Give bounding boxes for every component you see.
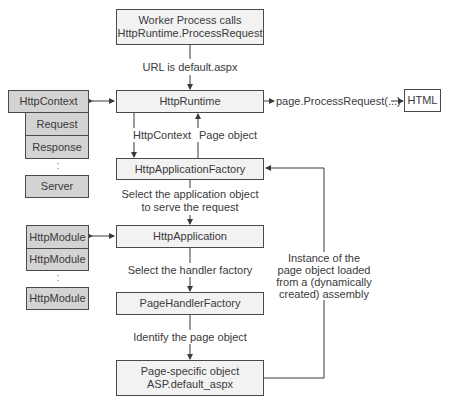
request-box: Request xyxy=(25,112,89,136)
select-handler-label: Select the handler factory xyxy=(125,264,255,277)
module-ellipsis: : xyxy=(54,275,62,280)
worker-process-line1: Worker Process calls xyxy=(138,14,241,27)
http-module-box-3: HttpModule xyxy=(26,287,89,310)
page-object-line2: ASP.default_aspx xyxy=(147,378,233,391)
http-module-box-2: HttpModule xyxy=(26,248,89,271)
http-application-box: HttpApplication xyxy=(116,225,264,248)
process-request-label: page.ProcessRequest(...) xyxy=(276,95,390,108)
page-specific-object-box: Page-specific object ASP.default_aspx xyxy=(116,360,264,396)
http-runtime-box: HttpRuntime xyxy=(116,90,264,113)
http-context-box: HttpContext xyxy=(8,90,89,113)
asp-net-request-pipeline-diagram: Worker Process calls HttpRuntime.Process… xyxy=(0,0,450,406)
instance-label-4: created) assembly xyxy=(270,288,378,301)
page-object-line1: Page-specific object xyxy=(141,365,239,378)
http-module-box-1: HttpModule xyxy=(26,225,89,249)
worker-process-line2: HttpRuntime.ProcessRequest xyxy=(118,27,263,40)
http-context-edge-label: HttpContext xyxy=(130,129,194,142)
identify-page-label: Identify the page object xyxy=(128,331,252,344)
html-box: HTML xyxy=(404,89,441,112)
http-application-factory-box: HttpApplicationFactory xyxy=(116,158,264,180)
response-box: Response xyxy=(25,135,89,159)
select-application-label-1: Select the application object xyxy=(115,188,265,201)
server-box: Server xyxy=(25,175,89,198)
page-handler-factory-box: PageHandlerFactory xyxy=(116,292,264,315)
context-ellipsis: : xyxy=(54,163,62,168)
worker-process-box: Worker Process calls HttpRuntime.Process… xyxy=(116,9,264,45)
url-label: URL is default.aspx xyxy=(140,61,240,74)
page-object-edge-label: Page object xyxy=(199,129,255,142)
select-application-label-2: to serve the request xyxy=(115,201,265,214)
